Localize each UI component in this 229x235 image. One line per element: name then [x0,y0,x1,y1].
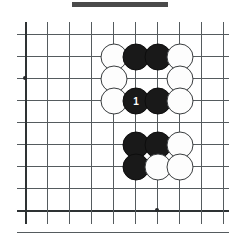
grid-line-vertical-3 [91,22,92,224]
grid-line-vertical-2 [69,22,70,224]
grid-line-vertical-0 [25,22,27,224]
hoshi-bottom-icon [155,208,159,212]
grid-line-vertical-1 [47,22,48,224]
hoshi-left-icon [23,76,27,80]
grid-line-horizontal-8 [17,210,229,212]
grid-line-vertical-8 [201,22,202,224]
move-number-label: 1 [133,96,139,106]
stone-white-7-6[interactable] [167,154,194,181]
stone-white-7-3[interactable] [167,88,194,115]
go-diagram-figure: 1 [0,0,229,235]
grid-line-vertical-9 [223,22,224,224]
grid-line-horizontal-7 [17,188,229,189]
go-board[interactable]: 1 [0,0,229,235]
grid-line-horizontal-9 [17,232,229,233]
grid-line-horizontal-0 [17,34,229,35]
grid-line-horizontal-4 [17,122,229,123]
